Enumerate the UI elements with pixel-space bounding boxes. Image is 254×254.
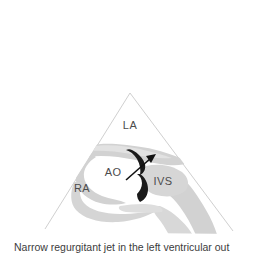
label-left-atrium: LA <box>123 119 138 131</box>
label-aorta: AO <box>105 166 122 178</box>
anatomy-group <box>69 144 218 250</box>
figure-caption: Narrow regurgitant jet in the left ventr… <box>14 241 250 254</box>
aortic-root-left-wall <box>76 154 126 205</box>
tissue-bridge-strand <box>119 204 163 213</box>
label-right-atrium: RA <box>74 182 90 194</box>
label-interventricular-septum: IVS <box>154 175 173 187</box>
